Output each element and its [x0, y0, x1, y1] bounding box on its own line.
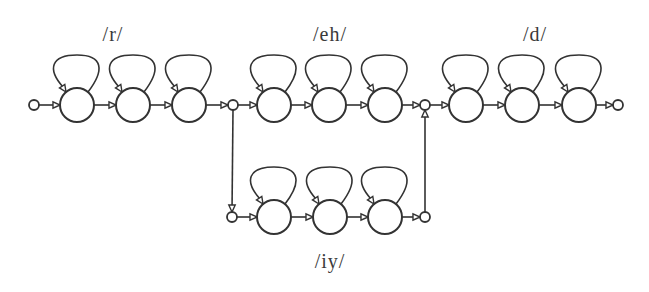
arrowhead-icon: [361, 102, 368, 108]
arrowhead-icon: [413, 102, 420, 108]
arrowhead-icon: [229, 205, 235, 212]
arrowhead-icon: [256, 196, 263, 204]
arrowhead-icon: [221, 102, 228, 108]
null-node-end: [613, 100, 623, 110]
hmm-state-r: [116, 88, 150, 122]
arrowhead-icon: [250, 102, 257, 108]
null-node-split: [228, 100, 238, 110]
arrowhead-icon: [109, 102, 116, 108]
self-loop-r: [110, 55, 155, 92]
arrowhead-icon: [367, 84, 374, 92]
null-node-start: [29, 100, 39, 110]
phone-label-eh: /eh/: [313, 23, 347, 46]
hmm-state-iy: [313, 200, 347, 234]
hmm-state-iy: [257, 200, 291, 234]
hmm-state-eh: [257, 88, 291, 122]
null-node-iy-out: [420, 212, 430, 222]
self-loop-d: [556, 55, 601, 92]
arrowhead-icon: [115, 84, 122, 92]
self-loop-eh: [251, 55, 296, 92]
self-loop-r: [166, 55, 211, 92]
self-loop-iy: [307, 167, 352, 204]
arrowhead-icon: [165, 102, 172, 108]
null-node-merge: [420, 100, 430, 110]
self-loop-r: [54, 55, 99, 92]
self-loop-iy: [251, 167, 296, 204]
self-loop-eh: [362, 55, 407, 92]
self-loop-iy: [362, 167, 407, 204]
arrowhead-icon: [59, 84, 66, 92]
hmm-state-r: [172, 88, 206, 122]
hmm-state-eh: [368, 88, 402, 122]
self-loop-d: [499, 55, 544, 92]
hmm-state-d: [562, 88, 596, 122]
arrowhead-icon: [306, 214, 313, 220]
phone-label-d: /d/: [523, 23, 547, 46]
arrowhead-icon: [422, 110, 428, 117]
hmm-state-r: [60, 88, 94, 122]
self-loop-d: [443, 55, 488, 92]
arrowhead-icon: [413, 214, 420, 220]
phone-label-iy: /iy/: [315, 250, 346, 273]
hmm-diagram: /r/ /eh/ /d/ /iy/: [0, 0, 649, 292]
arrowhead-icon: [250, 214, 257, 220]
arrowhead-icon: [606, 102, 613, 108]
null-node-iy-in: [227, 212, 237, 222]
arrowhead-icon: [561, 84, 568, 92]
arrowhead-icon: [312, 196, 319, 204]
arrowhead-icon: [498, 102, 505, 108]
arrowhead-icon: [256, 84, 263, 92]
arrowhead-icon: [367, 196, 374, 204]
arrowhead-icon: [171, 84, 178, 92]
branch-line-down: [232, 110, 233, 212]
arrowhead-icon: [361, 214, 368, 220]
phone-label-r: /r/: [103, 23, 124, 46]
arrowhead-icon: [311, 84, 318, 92]
arrowhead-icon: [448, 84, 455, 92]
hmm-state-d: [449, 88, 483, 122]
hmm-state-eh: [312, 88, 346, 122]
self-loop-eh: [306, 55, 351, 92]
hmm-state-iy: [368, 200, 402, 234]
hmm-state-d: [505, 88, 539, 122]
arrowhead-icon: [305, 102, 312, 108]
arrowhead-icon: [442, 102, 449, 108]
arrowhead-icon: [53, 102, 60, 108]
arrowhead-icon: [555, 102, 562, 108]
arrowhead-icon: [504, 84, 511, 92]
